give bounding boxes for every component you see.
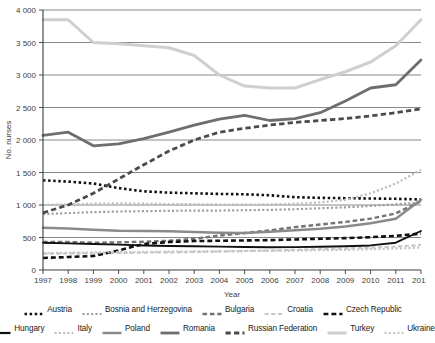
y-axis-tick-label: 2 500 — [16, 104, 37, 113]
legend-item-czech-republic[interactable]: Czech Republic — [323, 305, 402, 315]
series-line-italy — [43, 170, 421, 205]
legend-item-hungary[interactable]: Hungary — [0, 324, 44, 334]
legend-item-austria[interactable]: Austria — [24, 305, 72, 315]
legend-swatch-icon — [24, 305, 44, 315]
x-axis-tick-label: 2010 — [362, 276, 380, 285]
legend-label: Ukraine — [407, 324, 435, 333]
legend-swatch-icon — [264, 305, 284, 315]
series-line-romania — [43, 60, 421, 146]
x-axis-title: Year — [224, 290, 241, 299]
legend-item-poland[interactable]: Poland — [102, 324, 150, 334]
x-axis-tick-label: 2011 — [387, 276, 405, 285]
legend-swatch-icon — [327, 324, 347, 334]
legend-swatch-icon — [82, 305, 102, 315]
legend-swatch-icon — [160, 324, 180, 334]
plot-area: 05001 0001 5002 0002 5003 0003 5004 0001… — [0, 0, 426, 300]
legend-label: Austria — [47, 305, 72, 314]
x-axis-tick-label: 2008 — [311, 276, 329, 285]
x-axis-tick-label: 2004 — [211, 276, 229, 285]
x-axis-tick-label: 2000 — [110, 276, 128, 285]
x-axis-tick-label: 1998 — [59, 276, 77, 285]
legend-label: Poland — [125, 324, 150, 333]
x-axis-tick-label: 2003 — [185, 276, 203, 285]
legend-swatch-icon — [54, 324, 74, 334]
x-axis-tick-label: 2007 — [286, 276, 304, 285]
x-axis-tick-label: 2009 — [337, 276, 355, 285]
legend-row: HungaryItalyPolandRomaniaRussian Federat… — [0, 319, 426, 338]
legend-swatch-icon — [323, 305, 343, 315]
legend-item-romania[interactable]: Romania — [160, 324, 215, 334]
legend-label: Russian Federation — [248, 324, 317, 333]
x-axis-tick-label: 1997 — [34, 276, 52, 285]
legend-item-turkey[interactable]: Turkey — [327, 324, 374, 334]
chart-legend: AustriaBosnia and HerzegovinaBulgariaCro… — [0, 300, 426, 338]
legend-label: Bulgaria — [225, 305, 254, 314]
legend-item-italy[interactable]: Italy — [54, 324, 92, 334]
legend-row: AustriaBosnia and HerzegovinaBulgariaCro… — [0, 300, 426, 319]
y-axis-tick-label: 1 000 — [16, 201, 37, 210]
legend-label: Bosnia and Herzegovina — [105, 305, 192, 314]
y-axis-title: No. nurses — [4, 121, 13, 160]
series-line-bulgaria — [43, 201, 421, 243]
series-line-turkey — [43, 20, 421, 88]
legend-swatch-icon — [202, 305, 222, 315]
legend-label: Turkey — [350, 324, 374, 333]
legend-item-russian-federation[interactable]: Russian Federation — [225, 324, 317, 334]
legend-item-ukraine[interactable]: Ukraine — [384, 324, 435, 334]
x-axis-tick-label: 2006 — [261, 276, 279, 285]
y-axis-tick-label: 500 — [23, 234, 37, 243]
y-axis-tick-label: 2 000 — [16, 136, 37, 145]
legend-item-bosnia-and-herzegovina[interactable]: Bosnia and Herzegovina — [82, 305, 192, 315]
legend-item-bulgaria[interactable]: Bulgaria — [202, 305, 254, 315]
x-axis-tick-label: 1999 — [85, 276, 103, 285]
legend-label: Hungary — [14, 324, 44, 333]
legend-swatch-icon — [225, 324, 245, 334]
x-axis-tick-label: 2012 — [412, 276, 426, 285]
legend-label: Italy — [77, 324, 92, 333]
x-axis-tick-label: 2002 — [160, 276, 178, 285]
y-axis-tick-label: 4 000 — [16, 6, 37, 15]
legend-label: Romania — [183, 324, 215, 333]
legend-label: Croatia — [287, 305, 313, 314]
legend-swatch-icon — [102, 324, 122, 334]
legend-label: Czech Republic — [346, 305, 402, 314]
legend-swatch-icon — [0, 324, 11, 334]
y-axis-tick-label: 0 — [32, 266, 37, 275]
x-axis-tick-label: 2005 — [236, 276, 254, 285]
y-axis-tick-label: 3 000 — [16, 71, 37, 80]
y-axis-tick-label: 3 500 — [16, 39, 37, 48]
legend-swatch-icon — [384, 324, 404, 334]
legend-item-croatia[interactable]: Croatia — [264, 305, 313, 315]
y-axis-tick-label: 1 500 — [16, 169, 37, 178]
x-axis-tick-label: 2001 — [135, 276, 153, 285]
